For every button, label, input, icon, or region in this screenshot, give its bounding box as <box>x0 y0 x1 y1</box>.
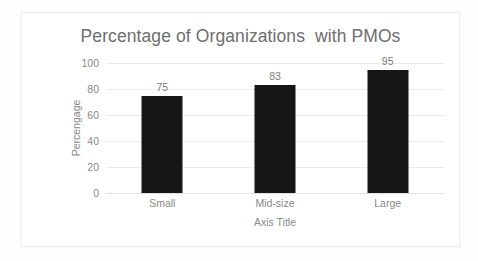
bar-slot-small: 75 <box>106 63 219 193</box>
x-tick-label-small: Small <box>149 197 175 209</box>
y-axis-title: Percengage <box>69 63 83 193</box>
bar-value-label-small: 75 <box>156 81 168 93</box>
y-tick-label-40: 40 <box>87 135 99 147</box>
chart-page: Percentage of Organizations with PMOs Pe… <box>0 0 478 261</box>
bar-slot-mid-size: 83 <box>219 63 332 193</box>
x-tick-label-large: Large <box>374 197 401 209</box>
bar-small[interactable] <box>142 96 183 194</box>
y-tick-label-60: 60 <box>87 109 99 121</box>
y-tick-label-20: 20 <box>87 161 99 173</box>
bar-slot-large: 95 <box>331 63 444 193</box>
y-tick-label-80: 80 <box>87 83 99 95</box>
bar-mid-size[interactable] <box>254 85 295 193</box>
bar-large[interactable] <box>367 70 408 194</box>
gridline-0: 0 <box>106 193 444 194</box>
bar-value-label-mid-size: 83 <box>269 70 281 82</box>
plot-area: 100 80 60 40 20 0 75 <box>106 63 444 193</box>
x-axis-title: Axis Title <box>106 216 444 228</box>
chart-frame: Percentage of Organizations with PMOs Pe… <box>21 12 460 247</box>
chart-title: Percentage of Organizations with PMOs <box>22 26 459 47</box>
x-tick-label-mid-size: Mid-size <box>255 197 294 209</box>
bar-value-label-large: 95 <box>382 55 394 67</box>
x-axis-category-labels: Small Mid-size Large <box>106 197 444 213</box>
y-axis-title-label: Percengage <box>70 100 82 157</box>
y-tick-label-0: 0 <box>93 187 99 199</box>
y-tick-label-100: 100 <box>81 57 99 69</box>
